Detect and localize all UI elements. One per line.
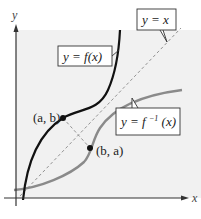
y-axis-label: y — [11, 8, 18, 22]
point-ab — [60, 115, 66, 121]
f-label: y = f(x) — [61, 49, 102, 64]
y-axis-arrow-icon — [14, 24, 19, 32]
x-axis-label: x — [191, 191, 198, 205]
finv-label-suffix: (x) — [162, 114, 176, 129]
identity-label: y = x — [140, 12, 169, 27]
inverse-function-diagram: y x (a, b) (b, a) y = f(x) y = x y = f −… — [0, 0, 201, 219]
point-ba-label: (b, a) — [96, 143, 123, 158]
finv-label-prefix: y = f — [119, 114, 148, 129]
point-ba — [87, 145, 93, 151]
finv-label-superscript: −1 — [149, 114, 158, 123]
point-ab-label: (a, b) — [33, 110, 60, 125]
